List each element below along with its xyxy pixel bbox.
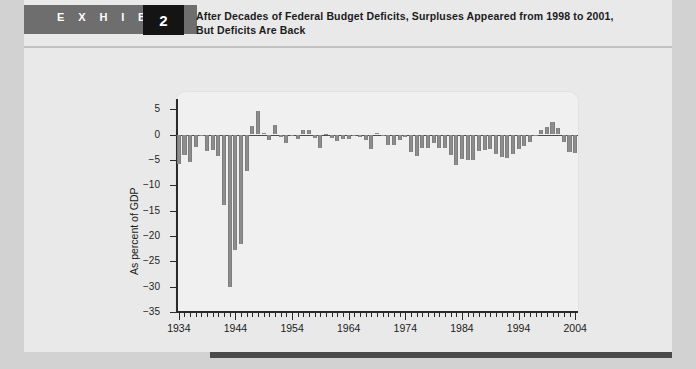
x-tick-minor [366, 313, 367, 317]
bar [211, 135, 215, 150]
bar [533, 135, 537, 137]
x-tick-minor [377, 313, 378, 317]
x-tick-minor [388, 313, 389, 317]
x-tick-minor [434, 313, 435, 317]
x-tick-minor [479, 313, 480, 317]
x-tick-minor [570, 313, 571, 317]
bar [477, 135, 481, 151]
x-tick-minor [252, 313, 253, 317]
x-tick-major [179, 313, 180, 320]
x-tick-minor [473, 313, 474, 317]
x-tick-minor [201, 313, 202, 317]
x-tick-minor [417, 313, 418, 317]
x-tick-minor [428, 313, 429, 317]
x-tick-minor [502, 313, 503, 317]
x-tick-label: 1934 [167, 322, 190, 334]
x-tick-minor [343, 313, 344, 317]
bar [279, 135, 283, 137]
bar [369, 135, 373, 150]
bar [567, 135, 571, 153]
x-tick-label: 1944 [224, 322, 247, 334]
bar [250, 126, 254, 135]
x-tick-label: 1964 [337, 322, 360, 334]
x-tick-minor [439, 313, 440, 317]
y-tick [170, 261, 176, 262]
x-tick-minor [558, 313, 559, 317]
y-tick-label: −35 [126, 306, 160, 317]
x-tick-minor [269, 313, 270, 317]
y-axis-line [176, 99, 178, 313]
bar [449, 135, 453, 155]
bar [307, 130, 311, 134]
bar [426, 135, 430, 149]
bar [403, 135, 407, 137]
x-tick-minor [190, 313, 191, 317]
y-tick-label: 5 [126, 103, 160, 114]
x-tick-minor [230, 313, 231, 317]
page-shadow [210, 352, 672, 358]
x-tick-minor [371, 313, 372, 317]
bar [262, 133, 266, 134]
x-tick-minor [547, 313, 548, 317]
x-tick-major [519, 313, 520, 320]
x-tick-minor [281, 313, 282, 317]
x-tick-minor [456, 313, 457, 317]
bar [522, 135, 526, 146]
bar [466, 135, 470, 161]
bar [420, 135, 424, 149]
x-tick-minor [524, 313, 525, 317]
bar [386, 135, 390, 146]
bar [511, 135, 515, 155]
bar [471, 135, 475, 160]
x-tick-label: 2004 [563, 322, 586, 334]
bar [494, 135, 498, 155]
x-tick-minor [264, 313, 265, 317]
x-tick-minor [354, 313, 355, 317]
y-tick [170, 312, 176, 313]
bar [358, 135, 362, 138]
bar [573, 135, 577, 153]
bar [562, 135, 566, 143]
x-tick-minor [298, 313, 299, 317]
x-tick-minor [326, 313, 327, 317]
bar [381, 135, 385, 137]
bar [290, 135, 294, 137]
bar [301, 130, 305, 135]
x-tick-minor [309, 313, 310, 317]
bar [199, 135, 203, 136]
x-tick-minor [536, 313, 537, 317]
x-tick-minor [213, 313, 214, 317]
x-tick-minor [184, 313, 185, 317]
x-tick-major [575, 313, 576, 320]
x-tick-minor [513, 313, 514, 317]
bar [313, 135, 317, 138]
bar [483, 135, 487, 151]
bar [460, 135, 464, 159]
bar [245, 135, 249, 172]
x-tick-minor [315, 313, 316, 317]
x-tick-minor [394, 313, 395, 317]
bar [505, 135, 509, 159]
x-tick-major [235, 313, 236, 320]
bar [341, 135, 345, 139]
x-tick-minor [241, 313, 242, 317]
bar [324, 134, 328, 135]
x-tick-minor [445, 313, 446, 317]
x-tick-minor [247, 313, 248, 317]
bar [335, 135, 339, 142]
bar [488, 135, 492, 149]
y-tick [170, 211, 176, 212]
y-tick [170, 160, 176, 161]
x-tick-label: 1994 [507, 322, 530, 334]
bar [398, 135, 402, 141]
y-tick [170, 236, 176, 237]
x-tick-label: 1974 [394, 322, 417, 334]
x-tick-minor [400, 313, 401, 317]
bar [222, 135, 226, 205]
x-tick-minor [258, 313, 259, 317]
x-tick-minor [496, 313, 497, 317]
x-tick-major [405, 313, 406, 320]
bar [392, 135, 396, 145]
bar [188, 135, 192, 163]
bar [539, 130, 543, 134]
